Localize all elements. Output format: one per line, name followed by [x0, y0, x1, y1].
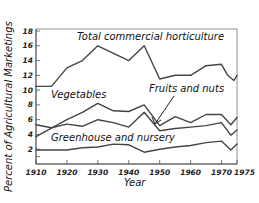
x-tick-label: 1940 — [118, 168, 139, 177]
y-axis-ticks: 24681012141618 — [23, 27, 40, 157]
label-total-commercial-horticulture: Total commercial horticulture — [77, 31, 224, 42]
y-tick-label: 6 — [28, 115, 33, 124]
x-tick-label: 1970 — [211, 168, 232, 177]
x-tick-label: 1930 — [87, 168, 108, 177]
label-greenhouse-and-nursery: Greenhouse and nursery — [51, 132, 176, 143]
series-line-total-commercial-horticulture — [36, 46, 237, 87]
y-tick-label: 14 — [23, 56, 33, 65]
x-tick-label: 1950 — [149, 168, 170, 177]
label-vegetables: Vegetables — [51, 89, 106, 100]
y-tick-label: 10 — [23, 86, 33, 95]
x-axis-title: Year — [124, 177, 146, 188]
x-tick-label: 1920 — [56, 168, 77, 177]
line-chart: 24681012141618 1910192019301940195019601… — [0, 0, 259, 203]
y-tick-label: 16 — [23, 41, 33, 50]
y-tick-label: 4 — [28, 130, 33, 139]
y-axis-title: Percent of Agricultural Marketings — [3, 21, 14, 192]
y-tick-label: 2 — [28, 145, 33, 154]
y-tick-label: 12 — [23, 71, 33, 80]
label-fruits-and-nuts: Fruits and nuts — [149, 83, 224, 94]
x-tick-label: 1960 — [180, 168, 201, 177]
x-axis-ticks: 19101920193019401950196019701975 — [26, 160, 255, 177]
y-tick-label: 18 — [23, 27, 33, 36]
x-tick-label: 1910 — [26, 168, 47, 177]
x-tick-label: 1975 — [234, 168, 255, 177]
y-tick-label: 8 — [28, 100, 33, 109]
